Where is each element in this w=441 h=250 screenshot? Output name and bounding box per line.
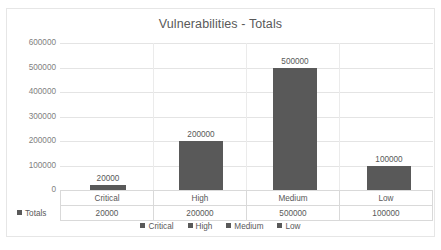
category-separator <box>246 43 247 190</box>
bar-value-label-critical: 20000 <box>83 174 133 183</box>
y-axis-tick-label: 100000 <box>10 162 56 170</box>
legend-label: Low <box>285 222 300 231</box>
y-axis-tick-label: 600000 <box>10 39 56 47</box>
y-axis: 600000 500000 400000 300000 200000 10000… <box>7 43 56 190</box>
chart-container: Vulnerabilities - Totals 600000 500000 4… <box>6 8 435 237</box>
table-column-header-high: High <box>154 191 247 206</box>
table-cell-totals-high: 200000 <box>154 206 247 221</box>
table-row-label: Totals <box>25 209 46 218</box>
y-axis-tick-label: 200000 <box>10 137 56 145</box>
chart-legend: CriticalHighMediumLow <box>7 222 434 231</box>
bar-value-label-high: 200000 <box>176 130 226 139</box>
legend-label: Critical <box>148 222 173 231</box>
bar-high[interactable] <box>179 141 223 190</box>
table-cell-totals-medium: 500000 <box>247 206 340 221</box>
table-cell-totals-critical: 20000 <box>61 206 154 221</box>
bar-medium[interactable] <box>273 68 317 191</box>
table-row-header-totals: Totals <box>15 206 61 221</box>
legend-swatch-icon <box>140 223 145 228</box>
plot-area: 20000 200000 500000 100000 <box>60 43 433 190</box>
bar-value-label-low: 100000 <box>364 155 414 164</box>
legend-swatch-icon <box>277 223 282 228</box>
bar-low[interactable] <box>367 166 411 191</box>
bar-value-label-medium: 500000 <box>270 57 320 66</box>
legend-item-medium[interactable]: Medium <box>226 222 263 231</box>
chart-data-table: Critical High Medium Low Totals 20000 20… <box>15 190 433 221</box>
table-row: Totals 20000 200000 500000 100000 <box>15 206 433 221</box>
y-axis-tick-label: 400000 <box>10 88 56 96</box>
legend-swatch-icon <box>188 223 193 228</box>
chart-title: Vulnerabilities - Totals <box>7 17 434 31</box>
legend-swatch-icon <box>226 223 231 228</box>
y-axis-tick-label: 500000 <box>10 64 56 72</box>
legend-item-critical[interactable]: Critical <box>140 222 173 231</box>
legend-label: Medium <box>234 222 263 231</box>
table-cell-totals-low: 100000 <box>340 206 433 221</box>
y-axis-tick-label: 300000 <box>10 113 56 121</box>
table-column-header-medium: Medium <box>247 191 340 206</box>
category-separator <box>339 43 340 190</box>
category-separator <box>153 43 154 190</box>
table-column-header-low: Low <box>340 191 433 206</box>
legend-item-high[interactable]: High <box>188 222 213 231</box>
table-corner-cell <box>15 191 61 206</box>
legend-item-low[interactable]: Low <box>277 222 300 231</box>
series-swatch-icon <box>17 210 22 215</box>
table-row-headers: Critical High Medium Low <box>15 191 433 206</box>
legend-label: High <box>196 222 213 231</box>
table-column-header-critical: Critical <box>61 191 154 206</box>
